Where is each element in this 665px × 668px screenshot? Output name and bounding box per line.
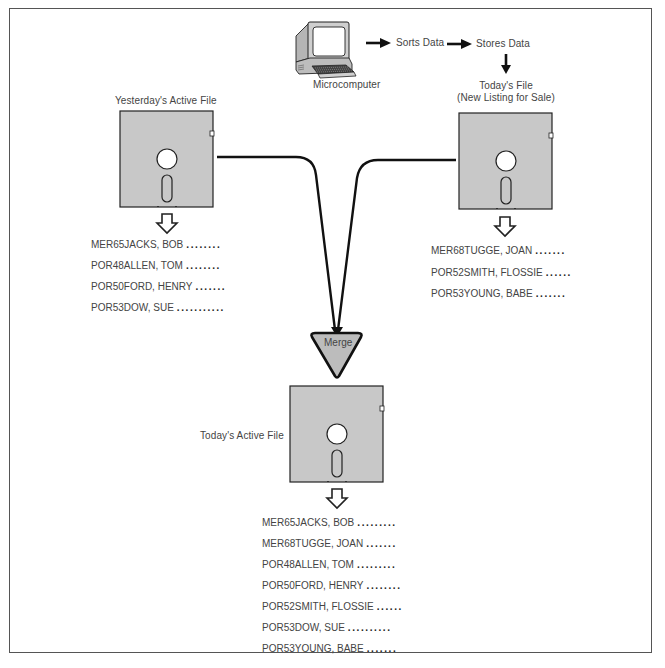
list-item: MER68TUGGE, JOAN.......: [431, 244, 566, 257]
list-item: POR53DOW, SUE...........: [91, 301, 225, 314]
flow-arrow-2: [447, 39, 472, 49]
down-arrow-icon: [157, 214, 177, 233]
flow-arrow-down: [501, 54, 511, 74]
todays-file-subtitle: (New Listing for Sale): [448, 92, 564, 103]
flow-arrow-1: [366, 38, 391, 48]
microcomputer-label: Microcomputer: [313, 79, 380, 90]
list-item: MER65JACKS, BOB........: [91, 238, 221, 251]
down-arrow-icon: [495, 217, 515, 236]
list-item: POR48ALLEN, TOM........: [91, 259, 221, 272]
yesterdays-file-title: Yesterday's Active File: [115, 95, 217, 106]
yesterdays-floppy-disk-icon: [120, 111, 214, 207]
list-item: POR53DOW, SUE..........: [262, 621, 392, 634]
merge-line-left: [217, 157, 335, 330]
list-item: POR53YOUNG, BABE.......: [262, 642, 397, 655]
microcomputer-icon: [296, 22, 356, 78]
list-item: POR50FORD, HENRY.......: [91, 280, 226, 293]
todays-file-floppy-disk-icon: [459, 113, 553, 209]
merge-label: Merge: [324, 337, 352, 348]
list-item: POR52SMITH, FLOSSIE......: [431, 266, 572, 279]
active-file-floppy-disk-icon: [290, 386, 384, 482]
list-item: POR48ALLEN, TOM.........: [262, 558, 396, 571]
list-item: MER65JACKS, BOB.........: [262, 516, 397, 529]
list-item: POR53YOUNG, BABE.......: [431, 287, 566, 300]
stores-data-label: Stores Data: [476, 38, 530, 49]
sorts-data-label: Sorts Data: [396, 37, 444, 48]
list-item: POR52SMITH, FLOSSIE......: [262, 600, 403, 613]
list-item: POR50FORD, HENRY........: [262, 579, 402, 592]
list-item: MER68TUGGE, JOAN.......: [262, 537, 397, 550]
active-file-title: Today's Active File: [200, 430, 284, 441]
down-arrow-icon: [327, 489, 347, 508]
todays-file-title: Today's File: [468, 80, 544, 91]
